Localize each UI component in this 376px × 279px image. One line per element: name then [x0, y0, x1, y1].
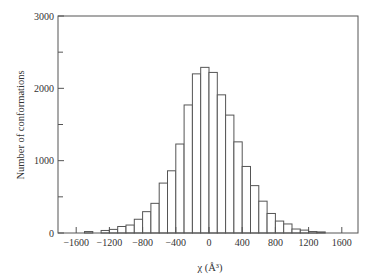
histogram-bar [259, 201, 267, 233]
histogram-bar [209, 72, 217, 233]
y-axis-label: Number of conformations [15, 70, 26, 179]
histogram-bar [267, 213, 275, 233]
histogram-bar [126, 225, 134, 233]
histogram-bar [159, 183, 167, 233]
x-tick-label: 1200 [299, 237, 319, 248]
y-tick-label: 3000 [34, 11, 54, 22]
histogram-bars [85, 67, 326, 233]
histogram-bar [242, 166, 250, 233]
x-tick-label: 800 [268, 237, 283, 248]
histogram-bar [251, 186, 259, 233]
y-axis-ticks: 0100020003000 [34, 11, 64, 239]
histogram-bar [151, 203, 159, 233]
histogram-bar [217, 95, 225, 233]
x-tick-label: −1600 [63, 237, 89, 248]
x-tick-label: −1200 [97, 237, 123, 248]
histogram-chart: 0100020003000 −1600−1200−800−40004008001… [0, 0, 376, 279]
y-tick-label: 1000 [34, 155, 54, 166]
x-tick-label: −400 [165, 237, 186, 248]
histogram-bar [234, 142, 242, 233]
histogram-bar [275, 221, 283, 233]
histogram-bar [292, 229, 300, 233]
y-tick-label: 2000 [34, 83, 54, 94]
x-axis-label: χ (Å³) [196, 262, 223, 274]
histogram-bar [176, 144, 184, 233]
histogram-bar [201, 67, 209, 233]
histogram-bar [118, 226, 126, 233]
histogram-bar [168, 171, 176, 233]
x-tick-label: 400 [235, 237, 250, 248]
x-tick-label: −800 [132, 237, 153, 248]
histogram-bar [192, 74, 200, 233]
y-tick-label: 0 [49, 228, 54, 239]
histogram-bar [143, 212, 151, 233]
x-tick-label: 0 [207, 237, 212, 248]
x-tick-label: 1600 [332, 237, 352, 248]
histogram-bar [284, 224, 292, 233]
histogram-bar [109, 229, 117, 233]
histogram-bar [134, 219, 142, 233]
histogram-bar [184, 105, 192, 233]
histogram-bar [226, 115, 234, 233]
